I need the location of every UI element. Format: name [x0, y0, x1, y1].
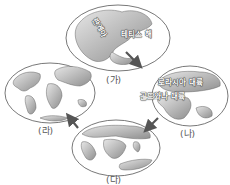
continental-drift-diagram	[0, 0, 230, 185]
stage-da-label: (다)	[106, 173, 121, 185]
arrow-da-to-ra	[70, 118, 78, 128]
gondwana-label: 곤드와나 대륙	[140, 90, 185, 101]
laurasia-label: 로라시아 대륙	[158, 76, 203, 87]
arrow-na-to-da	[148, 118, 158, 128]
stage-ga-label: (가)	[106, 73, 121, 86]
tethys-sea-label: 테티스 해	[121, 28, 152, 39]
stage-na-label: (나)	[180, 127, 195, 140]
stage-ga-globe	[66, 5, 170, 71]
stage-ra-label: (라)	[38, 124, 53, 137]
stage-ra-globe	[5, 63, 95, 123]
stage-da-globe	[72, 120, 160, 176]
